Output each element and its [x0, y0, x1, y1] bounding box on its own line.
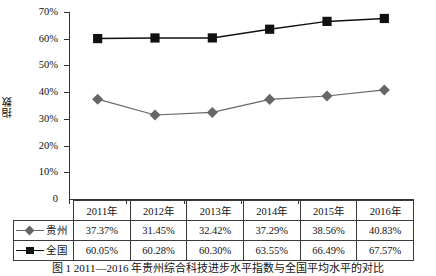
table-cell-value: 37.29%: [243, 221, 300, 241]
table-header-row: 2011年2012年2013年2014年2015年2016年: [14, 201, 414, 221]
table-column-header: 2014年: [243, 201, 300, 221]
table-column-header: 2016年: [357, 201, 414, 221]
y-axis-tick-mark: [64, 92, 69, 93]
table-cell-value: 40.83%: [357, 221, 414, 241]
data-point-marker: [207, 107, 218, 118]
series-national: [93, 14, 389, 43]
y-axis-tick-mark: [64, 172, 69, 173]
table-cell-value: 63.55%: [243, 241, 300, 261]
table-cell-value: 37.37%: [74, 221, 131, 241]
data-point-marker: [321, 90, 332, 101]
data-point-marker: [265, 25, 274, 34]
series-guizhou: [92, 84, 390, 120]
data-point-marker: [93, 34, 102, 43]
table-cell-value: 67.57%: [357, 241, 414, 261]
data-point-marker: [380, 14, 389, 23]
y-axis-tick-mark: [64, 65, 69, 66]
table-cell-value: 60.30%: [187, 241, 244, 261]
table-cell-value: 38.56%: [300, 221, 357, 241]
legend-label: 贵州: [46, 225, 68, 236]
series-line: [98, 18, 385, 38]
series-line: [98, 90, 385, 115]
legend-item-national: 全国: [14, 241, 74, 261]
legend-diamond-icon: [16, 225, 44, 237]
legend-entry: 全国: [16, 242, 73, 259]
data-point-marker: [149, 109, 160, 120]
table-column-header: 2012年: [130, 201, 187, 221]
y-axis-tick-mark: [64, 119, 69, 120]
table-row: 全国60.05%60.28%60.30%63.55%66.49%67.57%: [14, 241, 414, 261]
y-axis-tick-mark: [64, 39, 69, 40]
data-point-marker: [208, 33, 217, 42]
table-corner-cell: [14, 201, 74, 221]
data-series-layer: [0, 0, 436, 205]
y-axis-tick-mark: [64, 12, 69, 13]
data-point-marker: [264, 94, 275, 105]
table-row: 贵州37.37%31.45%32.42%37.29%38.56%40.83%: [14, 221, 414, 241]
legend-label: 全国: [46, 245, 68, 256]
table-cell-value: 60.05%: [74, 241, 131, 261]
legend-item-guizhou: 贵州: [14, 221, 74, 241]
table-column-header: 2011年: [74, 201, 131, 221]
data-point-marker: [379, 84, 390, 95]
table-column-header: 2015年: [300, 201, 357, 221]
figure-container: 指数 010%20%30%40%50%60%70% 2011年2012年2013…: [0, 0, 436, 276]
table-cell-value: 60.28%: [130, 241, 187, 261]
data-point-marker: [322, 17, 331, 26]
table-column-header: 2013年: [187, 201, 244, 221]
legend-entry: 贵州: [16, 222, 73, 239]
data-point-marker: [150, 33, 159, 42]
chart-plot-area: 指数 010%20%30%40%50%60%70%: [0, 0, 436, 205]
legend-square-icon: [16, 245, 44, 257]
data-table-body: 2011年2012年2013年2014年2015年2016年贵州37.37%31…: [14, 201, 414, 261]
table-cell-value: 31.45%: [130, 221, 187, 241]
data-point-marker: [92, 94, 103, 105]
y-axis-tick-mark: [64, 146, 69, 147]
table-cell-value: 32.42%: [187, 221, 244, 241]
table-cell-value: 66.49%: [300, 241, 357, 261]
data-table: 2011年2012年2013年2014年2015年2016年贵州37.37%31…: [13, 200, 414, 261]
figure-caption: 图 1 2011—2016 年贵州综合科技进步水平指数与全国平均水平的对比: [0, 262, 436, 275]
